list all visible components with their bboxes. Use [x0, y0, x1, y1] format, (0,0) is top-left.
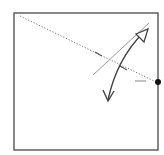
- reference-point-dot: [155, 79, 161, 85]
- fold-diagram: [0, 0, 164, 155]
- diagram-svg: [0, 0, 164, 155]
